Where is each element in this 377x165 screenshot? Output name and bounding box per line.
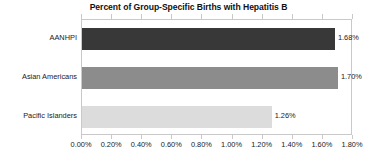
x-axis-bottom-tick-marks <box>81 135 352 139</box>
bar-chart: Percent of Group-Specific Births with He… <box>0 0 377 165</box>
x-axis-tick-label: 0.20% <box>101 140 122 149</box>
chart-title: Percent of Group-Specific Births with He… <box>0 2 377 12</box>
x-axis-tick-label: 1.00% <box>221 140 242 149</box>
x-axis-tick-label: 0.40% <box>131 140 152 149</box>
x-axis-tick-mark <box>352 14 353 19</box>
x-axis-tick-label: 0.80% <box>191 140 212 149</box>
x-axis-tick-mark <box>292 135 293 139</box>
bar <box>82 28 335 50</box>
category-label: Asian Americans <box>0 72 77 81</box>
bar-value-label: 1.26% <box>275 111 296 120</box>
x-axis-tick-label: 1.20% <box>251 140 272 149</box>
x-axis-tick-mark <box>352 135 353 139</box>
category-label: Pacific Islanders <box>0 111 77 120</box>
x-axis-tick-mark <box>262 135 263 139</box>
bar <box>82 67 338 89</box>
x-axis-tick-mark <box>232 135 233 139</box>
bar <box>82 106 272 128</box>
x-axis-tick-mark <box>141 135 142 139</box>
bar-value-label: 1.70% <box>341 72 362 81</box>
x-axis-tick-label: 0.00% <box>71 140 92 149</box>
x-axis-tick-mark <box>201 135 202 139</box>
x-axis-tick-label: 1.60% <box>311 140 332 149</box>
x-axis-tick-label: 1.40% <box>281 140 302 149</box>
x-axis-tick-mark <box>81 135 82 139</box>
x-axis-tick-mark <box>322 135 323 139</box>
category-label: AANHPI <box>0 33 77 42</box>
x-axis-tick-mark <box>171 135 172 139</box>
plot-area <box>81 19 352 135</box>
x-axis-tick-label: 1.80% <box>342 140 363 149</box>
x-axis-tick-mark <box>111 135 112 139</box>
bar-value-label: 1.68% <box>338 33 359 42</box>
x-axis-tick-label: 0.60% <box>161 140 182 149</box>
